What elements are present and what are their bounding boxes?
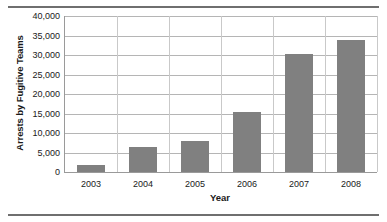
gridline-vertical (377, 16, 378, 172)
figure-container: Arrests by Fugitive Teams 05,00010,00015… (0, 0, 387, 222)
y-axis-tick-label: 25,000 (32, 70, 60, 80)
x-axis-tick-label: 2004 (133, 179, 153, 189)
x-axis-tick-label: 2006 (237, 179, 257, 189)
y-axis-tick-label: 20,000 (32, 89, 60, 99)
y-axis-tick-label: 40,000 (32, 11, 60, 21)
x-tick-slot: 2003 (65, 16, 117, 172)
top-rule (8, 6, 379, 8)
x-axis-tick-label: 2003 (81, 179, 101, 189)
x-tick-slot: 2004 (117, 16, 169, 172)
x-axis-title: Year (64, 192, 376, 203)
y-axis-tick-label: 30,000 (32, 50, 60, 60)
y-axis-title-wrapper: Arrests by Fugitive Teams (4, 75, 20, 91)
y-axis-tick-label: 15,000 (32, 109, 60, 119)
x-axis-tick-label: 2005 (185, 179, 205, 189)
y-axis-tick-label: 0 (55, 167, 60, 177)
x-axis-tick-label: 2008 (341, 179, 361, 189)
x-tick-slot: 2007 (273, 16, 325, 172)
x-tick-slot: 2005 (169, 16, 221, 172)
x-tick-slot: 2006 (221, 16, 273, 172)
y-axis-tick-label: 35,000 (32, 31, 60, 41)
x-axis-tick-label: 2007 (289, 179, 309, 189)
plot-area: 05,00010,00015,00020,00025,00030,00035,0… (64, 16, 377, 173)
y-axis-tick-label: 5,000 (37, 148, 60, 158)
y-axis-tick-label: 10,000 (32, 128, 60, 138)
y-axis-title: Arrests by Fugitive Teams (14, 13, 30, 173)
x-tick-slot: 2008 (325, 16, 377, 172)
bottom-rule (8, 214, 379, 216)
